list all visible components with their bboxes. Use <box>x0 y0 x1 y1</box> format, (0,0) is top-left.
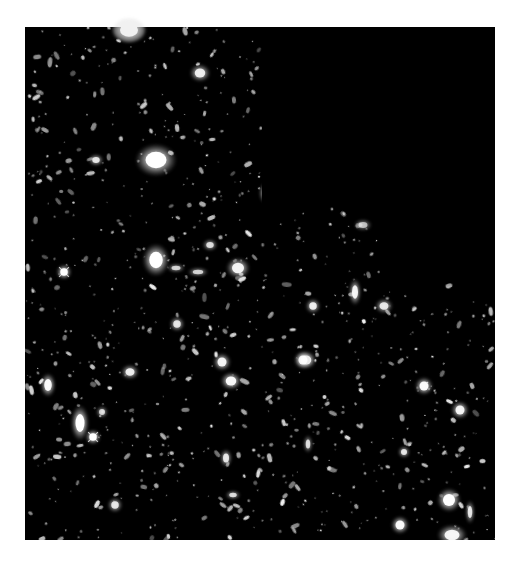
galaxy-right-edge-galaxy <box>466 500 475 524</box>
galaxy-bottom-d-galaxy <box>220 449 232 467</box>
galaxy-center-f-galaxy <box>294 351 312 369</box>
galaxy-bottom-b-galaxy <box>226 491 241 500</box>
galaxy-pair-a-galaxy <box>188 268 209 277</box>
galaxy-pair-b-galaxy <box>167 264 185 273</box>
galaxy-vertical-galaxy <box>349 279 361 306</box>
galaxy-oval-mid-galaxy <box>143 244 170 277</box>
galaxy-left-c-galaxy <box>96 406 108 418</box>
galaxy-bottom-a-galaxy <box>108 498 123 513</box>
bright-star-halo-layer <box>113 18 144 41</box>
galaxy-lower-right-c-galaxy <box>437 488 461 512</box>
deep-field-image <box>0 0 524 562</box>
faint-galaxy <box>240 181 242 183</box>
galaxy-lower-right-b-galaxy <box>451 401 469 419</box>
galaxy-center-e-galaxy <box>170 317 185 332</box>
galaxy-small-upper-galaxy <box>89 154 104 166</box>
galaxy-center-a-galaxy <box>213 353 231 371</box>
faint-galaxy <box>84 452 86 454</box>
faint-galaxy <box>72 202 75 204</box>
galaxy-mid-right-galaxy <box>226 258 250 279</box>
galaxy-top-mid-galaxy <box>190 64 211 82</box>
galaxy-lower-right-f-galaxy <box>398 446 410 458</box>
galaxy-bottom-c-galaxy <box>304 435 313 453</box>
galaxy-irregular-galaxy <box>354 219 372 231</box>
galaxy-center-b-galaxy <box>221 372 242 390</box>
galaxy-top-right-cluster-galaxy <box>203 239 218 251</box>
galaxy-center-d-galaxy <box>306 299 321 314</box>
galaxy-left-a-galaxy <box>41 373 56 397</box>
faint-galaxy <box>191 322 193 323</box>
galaxy-lower-right-d-galaxy <box>391 516 409 534</box>
galaxy-right-a-galaxy <box>375 299 393 314</box>
faint-galaxy <box>140 188 143 190</box>
faint-galaxy <box>144 110 148 114</box>
star-halo <box>113 18 144 41</box>
galaxy-large-upper-galaxy <box>135 144 177 177</box>
faint-galaxy <box>389 292 390 293</box>
galaxy-lower-right-a-galaxy <box>415 377 433 395</box>
galaxy-left-b-galaxy <box>121 365 139 380</box>
